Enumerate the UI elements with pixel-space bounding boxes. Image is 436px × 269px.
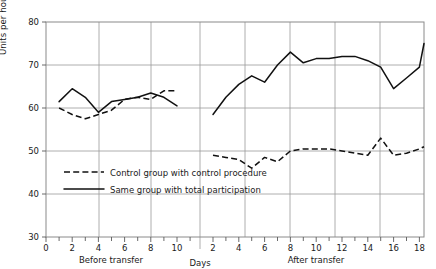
series-control-group xyxy=(59,91,424,168)
xtick-label-after-16: 16 xyxy=(388,243,399,253)
ytick-label-60: 60 xyxy=(28,103,39,113)
x-tick-marks-before xyxy=(46,237,190,242)
xtick-label-before-10: 10 xyxy=(172,243,183,253)
x-tick-labels-before: 0 2 4 6 8 10 xyxy=(43,243,182,253)
xtick-label-after-8: 8 xyxy=(288,243,293,253)
ytick-label-80: 80 xyxy=(28,17,39,27)
series-control-group-before xyxy=(59,91,177,119)
section-label-after: After transfer xyxy=(288,255,345,265)
xtick-label-after-2: 2 xyxy=(210,243,215,253)
y-tick-labels: 80 70 60 50 40 30 xyxy=(28,17,39,242)
x-axis-title: Days xyxy=(189,258,211,268)
chart-legend: Control group with control procedure Sam… xyxy=(64,168,267,195)
y-tick-marks xyxy=(42,22,46,237)
plot-frame xyxy=(46,22,424,237)
xtick-label-before-8: 8 xyxy=(148,243,153,253)
xtick-label-before-0: 0 xyxy=(43,243,48,253)
series-total-participation xyxy=(59,44,424,115)
chart-canvas: 80 70 60 50 40 30 xyxy=(0,0,436,269)
xtick-label-after-18: 18 xyxy=(414,243,425,253)
ytick-label-70: 70 xyxy=(28,60,39,70)
xtick-label-before-6: 6 xyxy=(122,243,127,253)
xtick-label-before-4: 4 xyxy=(96,243,101,253)
chart-figure: Units per hour xyxy=(0,0,436,269)
xtick-label-after-6: 6 xyxy=(262,243,267,253)
legend-label-dashed: Control group with control procedure xyxy=(110,168,267,178)
xtick-label-after-4: 4 xyxy=(236,243,241,253)
x-tick-marks-after xyxy=(213,237,419,242)
vertical-gridlines xyxy=(99,22,380,249)
xtick-label-after-14: 14 xyxy=(362,243,373,253)
xtick-label-before-2: 2 xyxy=(69,243,74,253)
x-tick-labels-after: 2 4 6 8 10 12 14 16 18 xyxy=(210,243,425,253)
legend-label-solid: Same group with total participation xyxy=(110,185,261,195)
xtick-label-after-12: 12 xyxy=(337,243,348,253)
ytick-label-30: 30 xyxy=(28,232,39,242)
ytick-label-50: 50 xyxy=(28,146,39,156)
xtick-label-after-10: 10 xyxy=(311,243,322,253)
ytick-label-40: 40 xyxy=(28,189,39,199)
series-total-participation-before xyxy=(59,89,177,113)
section-label-before: Before transfer xyxy=(79,255,144,265)
